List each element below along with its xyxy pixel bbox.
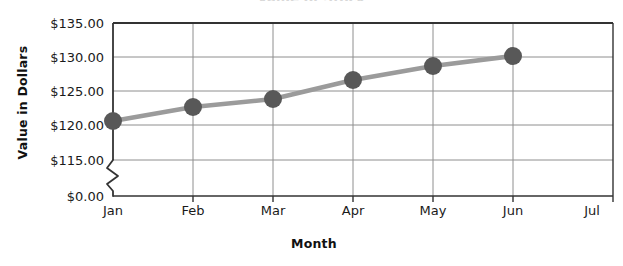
data-point-may[interactable]	[424, 57, 442, 75]
data-point-mar[interactable]	[264, 90, 282, 108]
vertical-gridlines	[193, 23, 513, 196]
data-line-series-1	[113, 56, 513, 121]
data-point-jun[interactable]	[504, 47, 522, 65]
data-point-jan[interactable]	[104, 112, 122, 130]
data-point-apr[interactable]	[344, 71, 362, 89]
data-point-feb[interactable]	[184, 98, 202, 116]
plot-area	[0, 0, 623, 266]
y-axis-line-with-break	[107, 23, 118, 196]
x-axis-tick-marks	[193, 196, 613, 202]
line-chart: Value of Stock Value in Dollars Month $1…	[0, 0, 623, 266]
